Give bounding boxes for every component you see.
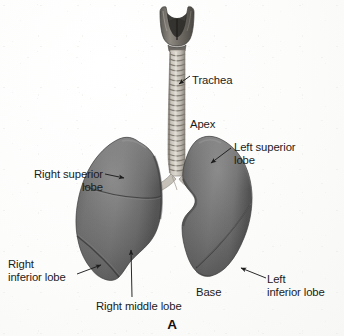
leader-left-inferior-lobe	[241, 268, 266, 278]
lung-anatomy-figure: Trachea Apex Left superior lobe Right su…	[0, 0, 344, 336]
label-right-inferior-lobe: Right inferior lobe	[8, 258, 98, 284]
label-left-inferior-lobe: Left inferior lobe	[267, 273, 344, 299]
trachea	[168, 50, 185, 176]
label-right-superior-lobe: Right superior lobe	[0, 168, 103, 194]
label-right-middle-lobe: Right middle lobe	[96, 300, 216, 313]
label-left-superior-lobe: Left superior lobe	[234, 141, 340, 167]
larynx	[160, 7, 194, 53]
label-base: Base	[196, 286, 221, 299]
label-trachea: Trachea	[192, 74, 232, 87]
label-apex: Apex	[190, 118, 215, 131]
figure-letter: A	[0, 317, 344, 332]
